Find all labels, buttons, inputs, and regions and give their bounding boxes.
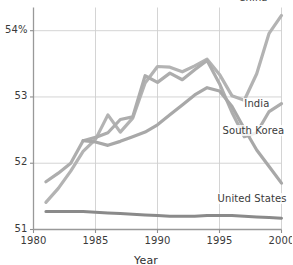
x-tick-label: 1990	[138, 235, 178, 246]
series-label-china: China	[238, 0, 269, 3]
y-tick-label: 52	[15, 156, 28, 167]
line-chart: 51525354% 19801985199019952000 ChinaIndi…	[0, 0, 292, 265]
y-tick-label: 53	[15, 90, 28, 101]
x-axis-title: Year	[0, 254, 292, 265]
x-tick-label: 1980	[14, 235, 54, 246]
y-tick-label: 51	[15, 223, 28, 234]
series-label-india: India	[243, 98, 270, 109]
y-tick-label: 54%	[5, 24, 28, 35]
x-tick-label: 1985	[76, 235, 116, 246]
x-tick-label: 1995	[200, 235, 240, 246]
series-lines	[46, 15, 282, 218]
series-label-united-states: United States	[217, 193, 288, 204]
series-line-united-states	[46, 212, 282, 219]
series-label-south-korea: South Korea	[222, 125, 286, 136]
x-tick-label: 2000	[262, 235, 293, 246]
